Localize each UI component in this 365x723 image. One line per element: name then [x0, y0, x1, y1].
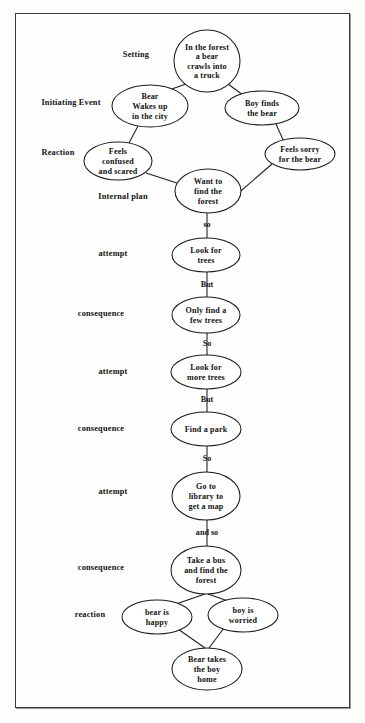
node-text-line: in the city — [132, 112, 168, 121]
node-boy-finds-node: Boy findsthe bear — [225, 91, 299, 125]
node-text-line: a bear — [196, 52, 219, 61]
stage-label-internal-plan: Internal plan — [98, 192, 148, 201]
node-text-line: Bear takes — [188, 655, 226, 664]
stage-label-attempt-2: attempt — [98, 367, 127, 376]
node-text-line: home — [197, 675, 217, 684]
node-text-line: forest — [198, 197, 219, 206]
edge-bear-happy-to-bear-takes — [178, 629, 205, 648]
node-text-line: Feels — [109, 147, 127, 156]
node-boy-worried-node: boy isworried — [208, 598, 278, 632]
node-text-line: Look for — [190, 363, 222, 372]
node-text-line: confused — [102, 157, 134, 166]
node-text-line: Look for — [190, 246, 222, 255]
stage-label-attempt-1: attempt — [98, 249, 127, 258]
node-text-line: Bear — [141, 92, 158, 101]
node-text-line: more trees — [187, 373, 225, 382]
node-text-line: the boy — [194, 665, 220, 674]
node-bear-takes-boy-node: Bear takesthe boyhome — [172, 648, 242, 690]
stage-label-consequence-3: consequence — [78, 563, 125, 572]
node-feels-confused-node: Feelsconfusedand scared — [84, 142, 152, 180]
node-text-line: forest — [196, 576, 217, 585]
connector-label-so-3: So — [203, 454, 212, 463]
edge-setting-to-boy-finds — [228, 84, 243, 95]
stage-label-reaction-bottom: reaction — [75, 610, 106, 619]
node-look-more-trees-node: Look formore trees — [171, 355, 241, 389]
node-text-line: worried — [229, 616, 258, 625]
node-bear-wakes-node: BearWakes upin the city — [112, 85, 188, 127]
node-feels-sorry-node: Feels sorryfor the bear — [265, 138, 335, 170]
node-text-line: a truck — [194, 71, 220, 80]
stage-label-initiating-event: Initiating Event — [41, 98, 100, 107]
node-text-line: and scared — [99, 167, 138, 176]
node-take-bus-node: Take a busand find theforest — [171, 546, 241, 594]
connector-label-but-2: But — [201, 395, 214, 404]
node-text-line: the bear — [247, 109, 277, 118]
screenshot-root: In the foresta bearcrawls intoa truckBea… — [0, 0, 365, 723]
node-text-line: Want to — [194, 177, 223, 186]
node-bear-happy-node: bear ishappy — [122, 600, 192, 634]
stage-label-attempt-3: attempt — [98, 487, 127, 496]
connector-label-but-1: But — [201, 280, 214, 289]
edge-boy-worried-to-bear-takes — [209, 628, 224, 648]
stage-label-setting: Setting — [123, 50, 150, 59]
node-text-line: trees — [197, 256, 214, 265]
nodes-layer: In the foresta bearcrawls intoa truckBea… — [84, 30, 335, 690]
node-text-line: Find a park — [185, 425, 228, 434]
node-text-line: Feels sorry — [280, 145, 320, 154]
story-map-diagram: In the foresta bearcrawls intoa truckBea… — [0, 0, 365, 723]
edge-boy-finds-to-feels-sorry — [276, 124, 284, 142]
node-only-few-trees-node: Only find afew trees — [172, 297, 240, 333]
connector-label-and-so: and so — [196, 528, 218, 537]
node-text-line: bear is — [145, 608, 169, 617]
node-text-line: Only find a — [186, 306, 227, 315]
node-text-line: Wakes up — [132, 102, 168, 111]
node-library-map-node: Go tolibrary toget a map — [172, 472, 240, 520]
edge-feels-confused-to-want-forest — [146, 173, 180, 184]
edge-take-bus-to-bear-happy — [176, 594, 205, 604]
node-look-trees-node: Look fortrees — [172, 238, 240, 272]
stage-label-reaction-top: Reaction — [42, 148, 75, 157]
node-text-line: boy is — [233, 606, 254, 615]
node-text-line: get a map — [188, 502, 223, 511]
node-text-line: few trees — [190, 316, 222, 325]
node-text-line: Go to — [196, 482, 216, 491]
node-setting-node: In the foresta bearcrawls intoa truck — [174, 30, 240, 92]
connector-label-so-2: So — [203, 339, 212, 348]
edge-bear-wakes-to-feels-confused — [129, 126, 138, 143]
node-want-forest-node: Want tofind theforest — [175, 169, 241, 213]
node-find-park-node: Find a park — [171, 412, 241, 446]
node-text-line: Boy finds — [245, 99, 279, 108]
stage-label-consequence-2: consequence — [78, 424, 125, 433]
node-text-line: happy — [146, 618, 168, 627]
node-text-line: library to — [189, 492, 224, 501]
node-text-line: In the forest — [185, 43, 229, 52]
connector-label-so-1: so — [203, 220, 210, 229]
node-text-line: find the — [194, 187, 222, 196]
stage-label-consequence-1: consequence — [78, 309, 125, 318]
node-text-line: and find the — [184, 566, 228, 575]
node-text-line: Take a bus — [187, 556, 226, 565]
node-text-line: crawls into — [187, 62, 227, 71]
node-text-line: for the bear — [279, 155, 322, 164]
